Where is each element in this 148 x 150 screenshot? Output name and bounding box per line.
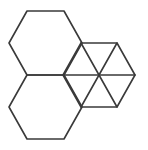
hexagon-diagram (0, 0, 148, 150)
